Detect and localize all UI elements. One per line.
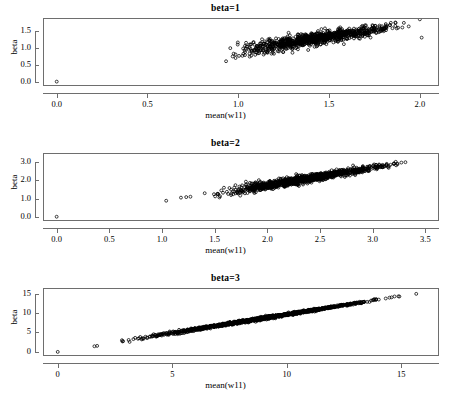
data-points xyxy=(44,19,438,85)
y-axis-line xyxy=(35,162,36,217)
plot-frame xyxy=(43,18,439,86)
plot-frame xyxy=(43,153,439,221)
y-axis-tick xyxy=(35,65,39,66)
panel-title: beta=2 xyxy=(0,138,451,148)
x-axis-tick-label: 10 xyxy=(267,369,307,379)
x-axis-tick-label: 2.0 xyxy=(247,234,287,244)
x-axis-tick-label: 0.0 xyxy=(37,99,77,109)
y-axis-label: beta xyxy=(9,27,19,67)
y-axis-tick xyxy=(35,31,39,32)
x-axis-tick-label: 0 xyxy=(38,369,78,379)
y-axis-tick xyxy=(35,294,39,295)
y-axis-tick-label: 0 xyxy=(1,346,31,356)
y-axis-tick xyxy=(35,162,39,163)
plot-area xyxy=(44,289,438,355)
y-axis-label: beta xyxy=(9,162,19,202)
y-axis-tick xyxy=(35,199,39,200)
x-axis-tick-label: 1.0 xyxy=(218,99,258,109)
panel-title: beta=3 xyxy=(0,273,451,283)
y-axis-tick-label: 0.0 xyxy=(1,76,31,86)
x-axis-tick xyxy=(57,229,58,233)
x-axis-tick xyxy=(215,229,216,233)
plot-area xyxy=(44,19,438,85)
x-axis-tick xyxy=(58,364,59,368)
y-axis-tick xyxy=(35,82,39,83)
x-axis-label: mean(w11) xyxy=(0,380,451,390)
y-axis-label: beta xyxy=(9,297,19,337)
x-axis-tick-label: 3.0 xyxy=(353,234,393,244)
x-axis-line xyxy=(43,93,439,94)
y-axis-line xyxy=(35,294,36,352)
x-axis-tick xyxy=(425,229,426,233)
x-axis-tick xyxy=(238,94,239,98)
panel-beta-3: beta=3051015051015mean(w11)beta xyxy=(0,270,451,407)
y-axis-tick xyxy=(35,313,39,314)
x-axis-tick xyxy=(109,229,110,233)
x-axis-tick xyxy=(267,229,268,233)
x-axis-tick xyxy=(162,229,163,233)
data-points xyxy=(44,289,438,355)
x-axis-line xyxy=(43,228,439,229)
x-axis-tick xyxy=(172,364,173,368)
x-axis-tick xyxy=(147,94,148,98)
x-axis-tick xyxy=(329,94,330,98)
x-axis-tick-label: 2.0 xyxy=(400,99,440,109)
x-axis-tick-label: 1.5 xyxy=(195,234,235,244)
x-axis-tick xyxy=(320,229,321,233)
x-axis-tick-label: 15 xyxy=(381,369,421,379)
panel-beta-1: beta=10.00.51.01.52.00.00.51.01.5mean(w1… xyxy=(0,0,451,135)
plot-area xyxy=(44,154,438,220)
x-axis-tick xyxy=(287,364,288,368)
y-axis-tick xyxy=(35,332,39,333)
x-axis-tick-label: 0.5 xyxy=(89,234,129,244)
panel-title: beta=1 xyxy=(0,3,451,13)
y-axis-tick xyxy=(35,48,39,49)
data-points xyxy=(44,154,438,220)
x-axis-label: mean(w11) xyxy=(0,245,451,255)
scatterplot-figure: beta=10.00.51.01.52.00.00.51.01.5mean(w1… xyxy=(0,0,451,407)
x-axis-tick xyxy=(401,364,402,368)
y-axis-tick xyxy=(35,180,39,181)
x-axis-tick-label: 3.5 xyxy=(405,234,445,244)
x-axis-tick-label: 0.5 xyxy=(127,99,167,109)
x-axis-tick xyxy=(373,229,374,233)
x-axis-tick-label: 1.0 xyxy=(142,234,182,244)
plot-frame xyxy=(43,288,439,356)
x-axis-tick xyxy=(57,94,58,98)
x-axis-tick-label: 1.5 xyxy=(309,99,349,109)
y-axis-tick xyxy=(35,217,39,218)
y-axis-tick xyxy=(35,352,39,353)
x-axis-label: mean(w11) xyxy=(0,110,451,120)
y-axis-tick-label: 0.0 xyxy=(1,211,31,221)
x-axis-line xyxy=(43,363,439,364)
x-axis-tick-label: 5 xyxy=(152,369,192,379)
x-axis-tick-label: 0.0 xyxy=(37,234,77,244)
panel-beta-2: beta=20.00.51.01.52.02.53.03.50.01.02.03… xyxy=(0,135,451,270)
x-axis-tick xyxy=(420,94,421,98)
x-axis-tick-label: 2.5 xyxy=(300,234,340,244)
y-axis-line xyxy=(35,31,36,82)
